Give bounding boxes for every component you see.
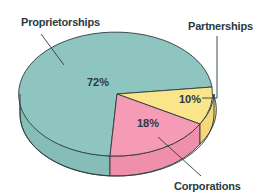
- pie-chart: Proprietorships Partnerships Corporation…: [0, 0, 262, 196]
- pct-corporations: 18%: [137, 117, 159, 129]
- pct-proprietorships: 72%: [87, 76, 109, 88]
- label-proprietorships: Proprietorships: [21, 16, 100, 28]
- label-partnerships: Partnerships: [188, 20, 253, 32]
- label-corporations: Corporations: [174, 180, 241, 192]
- pct-partnerships: 10%: [179, 93, 201, 105]
